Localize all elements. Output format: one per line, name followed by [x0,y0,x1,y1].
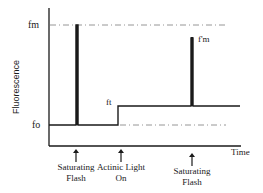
event-saturating-flash-2: Saturating Flash [162,153,222,188]
x-axis-label: Time [231,147,250,158]
up-arrow-icon [118,149,124,162]
fpm-label: f'm [198,34,210,45]
event-label-line2: On [91,173,151,184]
up-arrow-icon [189,153,195,166]
fm-label: fm [28,19,39,30]
event-label-line1: Saturating [162,166,222,177]
fo-label: fo [32,119,40,130]
up-arrow-icon [73,149,79,162]
y-axis-label: Fluorescence [11,47,21,127]
ft-label: ft [106,97,112,108]
event-label-line1: Actinic Light [91,162,151,173]
event-actinic-light-on: Actinic Light On [91,149,151,184]
event-label-line2: Flash [162,177,222,188]
